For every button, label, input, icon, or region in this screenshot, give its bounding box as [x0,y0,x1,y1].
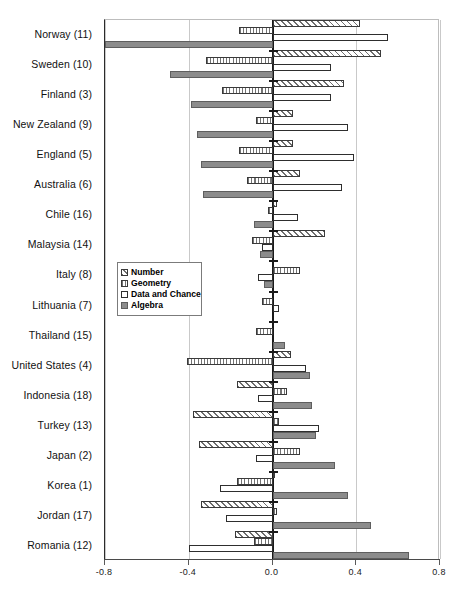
bar-geometry [256,328,273,335]
y-axis-category-label: England (5) [37,148,92,160]
y-axis-tick [269,291,278,293]
bar-geometry [222,87,272,94]
bar-algebra [254,221,273,228]
x-axis-tick [355,560,356,565]
y-axis-tick [269,80,278,82]
bar-data_and_chance [273,34,388,41]
y-axis-category-label: Korea (1) [47,479,92,491]
bar-algebra [273,402,313,409]
bar-algebra [273,522,371,529]
y-axis-category-label: Romania (12) [27,539,92,551]
y-axis-tick [269,170,278,172]
y-axis-category-label: Turkey (13) [38,419,92,431]
bar-data_and_chance [258,274,273,281]
y-axis-category-label: United States (4) [12,359,93,371]
bar-algebra [191,101,273,108]
x-axis-tick-label: 0.4 [349,567,362,577]
bar-data_and_chance [262,244,272,251]
bar-geometry [187,358,273,365]
bar-data_and_chance [273,365,307,372]
chart-page: -0.8-0.40.00.40.8 Norway (11)Sweden (10)… [0,0,456,605]
y-axis-category-label: Italy (8) [56,268,92,280]
bar-data_and_chance [273,94,332,101]
x-axis-tick [104,560,105,565]
y-axis-tick [269,140,278,142]
y-axis-tick [269,110,278,112]
y-axis-tick [269,381,278,383]
bar-number [273,20,361,27]
bar-number [199,441,272,448]
bar-number [201,501,272,508]
legend-item-algebra: Algebra [121,300,197,311]
bar-algebra [273,342,286,349]
bar-algebra [264,281,272,288]
legend-label-geometry: Geometry [131,278,171,289]
x-axis-tick-label: 0.0 [265,567,278,577]
x-axis-tick [188,560,189,565]
gridline [440,20,441,559]
bar-algebra [170,71,273,78]
bar-number [273,50,382,57]
y-axis-category-label: Japan (2) [47,449,92,461]
bar-algebra [273,372,311,379]
bar-number [193,411,273,418]
x-axis-tick [272,560,273,565]
bar-data_and_chance [256,455,273,462]
bar-geometry [239,147,273,154]
x-axis-tick-label: -0.8 [96,567,113,577]
bar-algebra [197,131,272,138]
bar-data_and_chance [258,395,273,402]
bar-geometry [252,237,273,244]
y-axis-tick [269,501,278,503]
y-axis-category-label: Jordan (17) [37,509,92,521]
y-axis-tick [269,260,278,262]
y-axis-category-label: Indonesia (18) [23,389,92,401]
bar-data_and_chance [273,184,342,191]
legend-label-data-and-chance: Data and Chance [131,289,201,300]
legend-swatch-geometry-icon [121,280,128,287]
bar-geometry [206,57,273,64]
y-axis-tick [269,321,278,323]
y-axis-labels: Norway (11)Sweden (10)Finland (3)New Zea… [0,19,100,560]
y-axis-tick [269,441,278,443]
bar-geometry [262,298,272,305]
bar-geometry [273,508,277,515]
bar-geometry [268,207,272,214]
gridline [105,20,106,559]
bar-geometry [239,27,273,34]
legend-item-data-and-chance: Data and Chance [121,289,197,300]
bar-number [235,531,273,538]
y-axis-category-label: Norway (11) [34,28,92,40]
legend-label-algebra: Algebra [131,300,163,311]
y-axis-tick [269,200,278,202]
bar-data_and_chance [226,515,272,522]
x-axis-tick-label: -0.4 [179,567,196,577]
y-axis-tick [269,411,278,413]
y-axis-category-label: Sweden (10) [31,58,92,70]
y-axis-category-label: Finland (3) [41,88,92,100]
bar-geometry [273,388,288,395]
y-axis-category-label: Thailand (15) [29,329,92,341]
bar-number [273,230,325,237]
figure-caption [6,592,450,603]
y-axis-tick [269,351,278,353]
bar-algebra [273,432,317,439]
bar-geometry [273,267,300,274]
legend-item-number: Number [121,267,197,278]
bar-number [273,80,344,87]
bar-algebra [260,251,273,258]
y-axis-category-label: Lithuania (7) [32,299,92,311]
x-axis: -0.8-0.40.00.40.8 [104,560,440,584]
x-axis-tick-label: 0.8 [432,567,445,577]
gridline [356,20,357,559]
chart-legend: Number Geometry Data and Chance Algebra [117,262,202,316]
bar-algebra [203,191,272,198]
bar-geometry [273,418,279,425]
bar-geometry [254,538,273,545]
bar-geometry [256,117,273,124]
bar-geometry [273,448,300,455]
y-axis-category-label: Chile (16) [45,208,92,220]
bar-data_and_chance [273,64,332,71]
x-axis-tick [439,560,440,565]
legend-swatch-data-and-chance-icon [121,291,128,298]
